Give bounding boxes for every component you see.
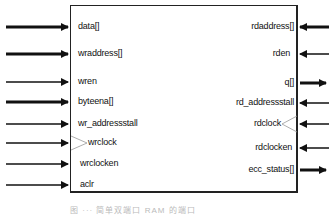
port-label-rdclocken: rdclocken <box>255 142 292 152</box>
port-label-wren: wren <box>78 76 97 86</box>
port-label-ecc-status: ecc_status[] <box>248 164 294 174</box>
port-label-data: data[] <box>78 21 99 31</box>
figure-caption: 图 ··· 简单双端口 RAM 的端口 <box>70 204 196 215</box>
port-label-rden: rden <box>273 48 290 58</box>
port-label-rd-addressstall: rd_addressstall <box>236 97 294 107</box>
clock-triangle-icon <box>282 116 297 132</box>
port-label-wraddress: wraddress[] <box>78 48 122 58</box>
clock-triangle-icon <box>71 136 87 150</box>
port-label-rdclock: rdclock <box>254 118 281 128</box>
port-label-rdaddress: rdaddress[] <box>251 21 294 31</box>
port-label-wrclocken: wrclocken <box>80 158 118 168</box>
port-label-byteena: byteena[] <box>78 96 113 106</box>
port-label-wrclock: wrclock <box>88 137 117 147</box>
port-label-wr-addressstall: wr_addressstall <box>78 118 138 128</box>
port-label-aclr: aclr <box>80 179 94 189</box>
port-arrows <box>0 0 334 215</box>
port-label-q: q[] <box>285 77 294 87</box>
